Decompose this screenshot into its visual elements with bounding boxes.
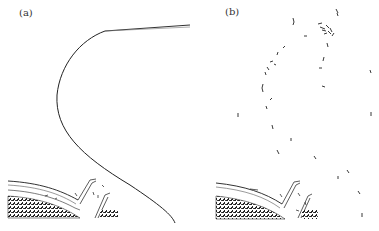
figure-panel-b: (b) [190, 0, 379, 231]
trajectory-curve-plot [0, 0, 190, 231]
fragment-scatter-plot [190, 0, 379, 231]
figure-panel-a: (a) [0, 0, 190, 231]
